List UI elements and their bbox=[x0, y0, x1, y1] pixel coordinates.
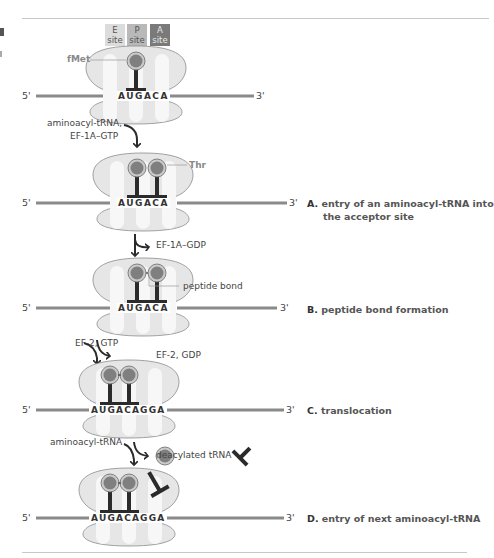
stage-4 bbox=[36, 360, 284, 438]
stage-5 bbox=[36, 447, 284, 546]
step-b-line1: peptide bond formation bbox=[321, 304, 448, 315]
arrow-2 bbox=[135, 234, 149, 256]
reaction-1-line1: aminoacyl-tRNA, bbox=[47, 118, 122, 128]
fmet-label: fMet bbox=[67, 54, 90, 64]
three-prime-3: 3' bbox=[280, 302, 289, 313]
step-a-letter: A. bbox=[307, 198, 318, 209]
codon-seq-1: AUGACA bbox=[117, 91, 170, 101]
step-a-caption: A. entry of an aminoacyl-tRNA into the a… bbox=[307, 197, 494, 223]
three-prime-5: 3' bbox=[286, 512, 295, 523]
stage-2 bbox=[36, 153, 287, 231]
codon-seq-5: AUGACAGGA bbox=[90, 513, 166, 523]
codon-seq-3: AUGACA bbox=[117, 303, 170, 313]
free-deacylated-trna bbox=[232, 441, 257, 466]
deacylated-trna-label: deacylated tRNA bbox=[156, 450, 231, 460]
thr-label: Thr bbox=[189, 160, 206, 170]
arrow-4 bbox=[124, 442, 148, 465]
reaction-2-product: EF-1A–GDP bbox=[156, 240, 206, 250]
reaction-3-input: EF-2, GTP bbox=[75, 338, 118, 348]
step-a-line2: the acceptor site bbox=[307, 211, 414, 222]
step-b-caption: B. peptide bond formation bbox=[307, 303, 449, 316]
step-c-line1: translocation bbox=[321, 405, 392, 416]
reaction-4-input: aminoacyl-tRNA bbox=[50, 437, 122, 447]
reaction-1-line2: EF-1A–GTP bbox=[70, 131, 118, 141]
stage-3 bbox=[36, 258, 277, 336]
five-prime-5: 5' bbox=[22, 512, 31, 523]
step-c-letter: C. bbox=[307, 405, 318, 416]
step-c-caption: C. translocation bbox=[307, 404, 392, 417]
step-d-line1: entry of next aminoacyl-tRNA bbox=[322, 513, 481, 524]
arrow-1 bbox=[124, 125, 137, 147]
five-prime-2: 5' bbox=[22, 197, 31, 208]
five-prime-1: 5' bbox=[22, 90, 31, 101]
step-b-letter: B. bbox=[307, 304, 318, 315]
peptide-bond-label: peptide bond bbox=[183, 281, 243, 291]
three-prime-2: 3' bbox=[289, 197, 298, 208]
step-a-line1: entry of an aminoacyl-tRNA into bbox=[321, 198, 493, 209]
reaction-3-product: EF-2, GDP bbox=[156, 350, 201, 360]
five-prime-3: 5' bbox=[22, 302, 31, 313]
codon-seq-4: AUGACAGGA bbox=[90, 405, 166, 415]
five-prime-4: 5' bbox=[22, 404, 31, 415]
step-d-letter: D. bbox=[307, 513, 319, 524]
three-prime-1: 3' bbox=[256, 90, 265, 101]
three-prime-4: 3' bbox=[286, 404, 295, 415]
codon-seq-2: AUGACA bbox=[117, 198, 170, 208]
step-d-caption: D. entry of next aminoacyl-tRNA bbox=[307, 512, 480, 525]
